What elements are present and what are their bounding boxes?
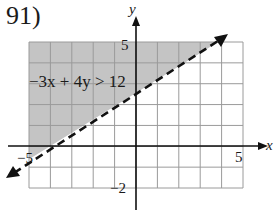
graph-figure: 91) y x 5 −2 5 −5 −3x + 4y > 12 — [0, 0, 275, 220]
inequality-label: −3x + 4y > 12 — [29, 73, 126, 90]
y-max-tick-label: 5 — [121, 38, 129, 53]
boundary-arrow-upper-icon — [214, 34, 228, 47]
x-axis-label: x — [266, 138, 273, 153]
x-min-tick-label: −5 — [17, 151, 33, 166]
y-axis-label: y — [129, 2, 136, 17]
coordinate-plane — [0, 0, 275, 220]
y-axis-arrow-icon — [132, 16, 140, 26]
x-max-tick-label: 5 — [235, 150, 243, 165]
y-min-tick-label: −2 — [110, 181, 126, 196]
